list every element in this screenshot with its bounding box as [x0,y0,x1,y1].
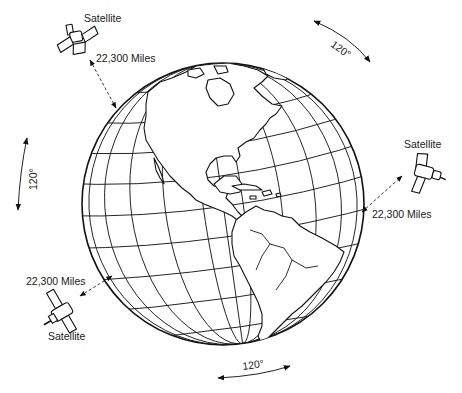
satellite-icon [54,20,101,57]
distance-label: 22,300 Miles [26,275,86,287]
satellite-icon [408,152,451,199]
angle-marker-bottom: 120° [218,357,290,378]
satellite-right: Satellite 22,300 Miles [362,138,451,220]
double-arrow-icon [18,138,27,210]
angle-label: 120° [27,168,39,190]
globe [42,43,402,366]
angle-marker-top-right: 120° [314,21,370,62]
satellite-bottom-left: 22,300 Miles Satellite [26,275,112,342]
satellite-label: Satellite [404,138,442,150]
distance-label: 22,300 Miles [372,208,432,220]
angle-marker-left: 120° [18,138,39,210]
satellite-label: Satellite [48,330,86,342]
satellite-label: Satellite [84,12,122,24]
distance-line [362,176,402,212]
satellite-coverage-diagram: Satellite 22,300 Miles Satellite 22,300 … [0,0,462,393]
angle-label: 120° [242,357,265,372]
distance-line [90,60,116,108]
distance-label: 22,300 Miles [96,52,156,64]
